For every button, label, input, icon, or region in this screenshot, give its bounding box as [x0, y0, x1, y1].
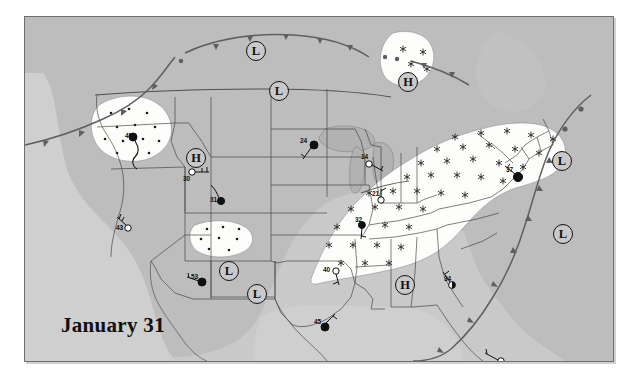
pressure-center-low-2: L	[269, 81, 289, 101]
precip-area-fourcorners	[190, 221, 253, 257]
map-date-title: January 31	[61, 313, 165, 338]
pressure-center-low-5: L	[219, 261, 239, 281]
station-temp-tennessee: 32	[355, 217, 362, 224]
pressure-center-high-3: H	[395, 275, 415, 295]
station-temp-idaho: 30	[183, 176, 190, 183]
pressure-center-high-2: H	[186, 148, 206, 168]
station-temp-utah: 31	[210, 197, 217, 204]
weather-map-page: L L H H L L L L H 40 30 31 24 14 21 32 4…	[0, 0, 636, 392]
station-temp-texas: 45	[314, 319, 321, 326]
station-temp-dakota: 24	[300, 138, 307, 145]
map-graphic	[25, 17, 613, 361]
pressure-center-high-1: H	[398, 72, 418, 92]
station-temp-northeast: 37	[506, 167, 513, 174]
station-temp-greatlakes: 14	[361, 154, 368, 161]
station-temp-alabama: 34	[444, 276, 451, 283]
station-temp-ohio: 21	[372, 191, 379, 198]
station-temp-oklahoma: 40	[323, 267, 330, 274]
station-temp-pacific-nw: 40	[125, 133, 132, 140]
pressure-center-low-3: L	[552, 151, 572, 171]
pressure-center-low-4: L	[553, 224, 573, 244]
pressure-center-low-1: L	[246, 41, 266, 61]
pressure-center-low-6: L	[247, 284, 267, 304]
station-temp-arizona: 53	[191, 274, 198, 281]
station-temp-california: 43	[116, 225, 123, 232]
weather-map: L L H H L L L L H 40 30 31 24 14 21 32 4…	[24, 16, 614, 362]
